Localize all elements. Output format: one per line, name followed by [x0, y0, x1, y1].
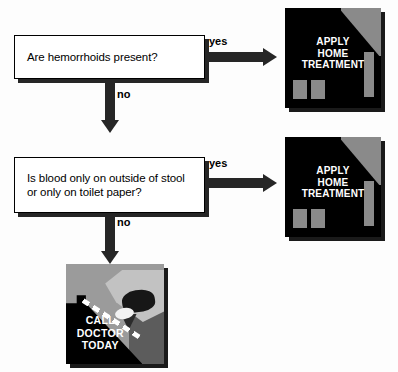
arrow-no-1	[105, 79, 115, 133]
outcome-panel-apply-home-treatment-2[interactable]: APPLY HOME TREATMENT	[285, 137, 381, 237]
outcome-caption-3-line2: DOCTOR	[70, 327, 131, 340]
outcome-caption-1: APPLY HOME TREATMENT	[285, 36, 381, 71]
outcome-caption-1-line1: APPLY	[285, 36, 381, 48]
outcome-panel-apply-home-treatment-1[interactable]: APPLY HOME TREATMENT	[285, 8, 381, 108]
arrow-yes-1-head	[263, 48, 277, 66]
decision-box-blood-location-line1: Is blood only on outside of stool	[27, 172, 185, 184]
house-window-left	[292, 208, 308, 229]
arrow-yes-2-shaft	[205, 178, 263, 188]
outcome-caption-2-line1: APPLY	[285, 165, 381, 177]
decision-box-hemorrhoids-text: Are hemorrhoids present?	[15, 50, 166, 64]
arrow-no-1-head	[101, 120, 119, 133]
arrow-no-1-shaft	[105, 79, 115, 120]
outcome-caption-2: APPLY HOME TREATMENT	[285, 165, 381, 200]
arrow-yes-1	[205, 52, 277, 62]
arrow-yes-2-head	[263, 174, 277, 192]
flowchart-canvas: Are hemorrhoids present? yes no Is blood…	[0, 0, 398, 372]
outcome-caption-2-line2: HOME	[285, 177, 381, 189]
outcome-caption-3: CALL DOCTOR TODAY	[70, 314, 131, 352]
decision-box-blood-location[interactable]: Is blood only on outside of stool or onl…	[14, 157, 205, 213]
decision-box-blood-location-line2: or only on toilet paper?	[27, 186, 142, 198]
branch-label-no-2: no	[117, 216, 130, 228]
house-window-left	[292, 79, 308, 100]
branch-label-yes-1: yes	[209, 35, 227, 47]
branch-label-yes-2: yes	[209, 157, 227, 169]
outcome-caption-3-line1: CALL	[70, 314, 131, 327]
decision-box-hemorrhoids[interactable]: Are hemorrhoids present?	[14, 35, 205, 79]
outcome-caption-3-line3: TODAY	[70, 339, 131, 352]
outcome-caption-2-line3: TREATMENT	[285, 188, 381, 200]
arrow-no-2	[105, 213, 115, 264]
arrow-yes-2	[205, 178, 277, 188]
arrow-yes-1-shaft	[205, 52, 263, 62]
branch-label-no-1: no	[117, 88, 130, 100]
decision-box-blood-location-text: Is blood only on outside of stool or onl…	[15, 171, 193, 199]
house-window-right	[310, 208, 326, 229]
outcome-caption-1-line3: TREATMENT	[285, 59, 381, 71]
outcome-panel-call-doctor-today[interactable]: CALL DOCTOR TODAY	[66, 264, 164, 364]
outcome-caption-1-line2: HOME	[285, 48, 381, 60]
arrow-no-2-shaft	[105, 213, 115, 251]
house-window-right	[310, 79, 326, 100]
arrow-no-2-head	[101, 251, 119, 264]
